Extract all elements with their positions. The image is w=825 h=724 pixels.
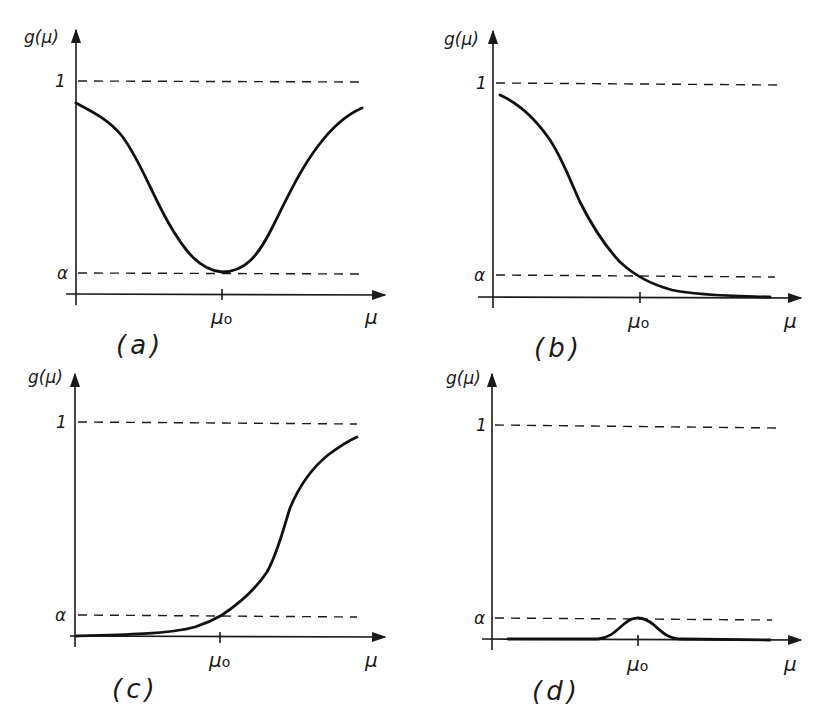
reference-line-one bbox=[78, 81, 362, 82]
alpha-label: α bbox=[474, 608, 485, 628]
mu0-label: μo bbox=[210, 305, 232, 329]
y-axis-label: g(μ) bbox=[446, 368, 481, 388]
y-axis-label: g(μ) bbox=[444, 29, 479, 49]
one-label: 1 bbox=[476, 73, 487, 93]
mu0-label: μo bbox=[626, 652, 648, 676]
figure-canvas: g(μ) 1 α μo μ (a) g(μ) 1 α μo μ (b) g(μ)… bbox=[0, 0, 825, 724]
one-label: 1 bbox=[55, 71, 66, 91]
panel-a: g(μ) 1 α μo μ (a) bbox=[24, 27, 385, 360]
curve-bump bbox=[508, 618, 770, 640]
x-axis-label: μ bbox=[783, 309, 797, 333]
reference-line-one bbox=[496, 83, 783, 85]
reference-line-one bbox=[495, 425, 780, 428]
panel-label: (a) bbox=[116, 330, 164, 360]
y-axis-label: g(μ) bbox=[24, 27, 59, 47]
mu0-label: μo bbox=[627, 309, 649, 333]
panel-label: (b) bbox=[534, 333, 583, 363]
panel-b: g(μ) 1 α μo μ (b) bbox=[444, 29, 801, 363]
panel-label: (d) bbox=[532, 676, 581, 706]
alpha-label: α bbox=[57, 263, 68, 283]
panel-c: g(μ) 1 α μo μ (c) bbox=[28, 367, 385, 704]
alpha-label: α bbox=[474, 265, 485, 285]
x-axis bbox=[66, 294, 385, 295]
y-axis-label: g(μ) bbox=[28, 367, 63, 387]
one-label: 1 bbox=[476, 415, 487, 435]
alpha-label: α bbox=[55, 605, 66, 625]
curve-increasing-sigmoid bbox=[76, 437, 357, 636]
panel-d: g(μ) 1 α μo μ (d) bbox=[446, 368, 801, 706]
one-label: 1 bbox=[56, 412, 67, 432]
x-axis-label: μ bbox=[364, 305, 378, 329]
mu0-label: μo bbox=[208, 648, 230, 672]
x-axis-label: μ bbox=[783, 652, 797, 676]
curve-decreasing-sigmoid bbox=[500, 95, 770, 297]
curve-u-shaped bbox=[76, 103, 362, 272]
panel-label: (c) bbox=[112, 674, 159, 704]
x-axis-label: μ bbox=[364, 648, 378, 672]
reference-line-one bbox=[78, 422, 357, 424]
